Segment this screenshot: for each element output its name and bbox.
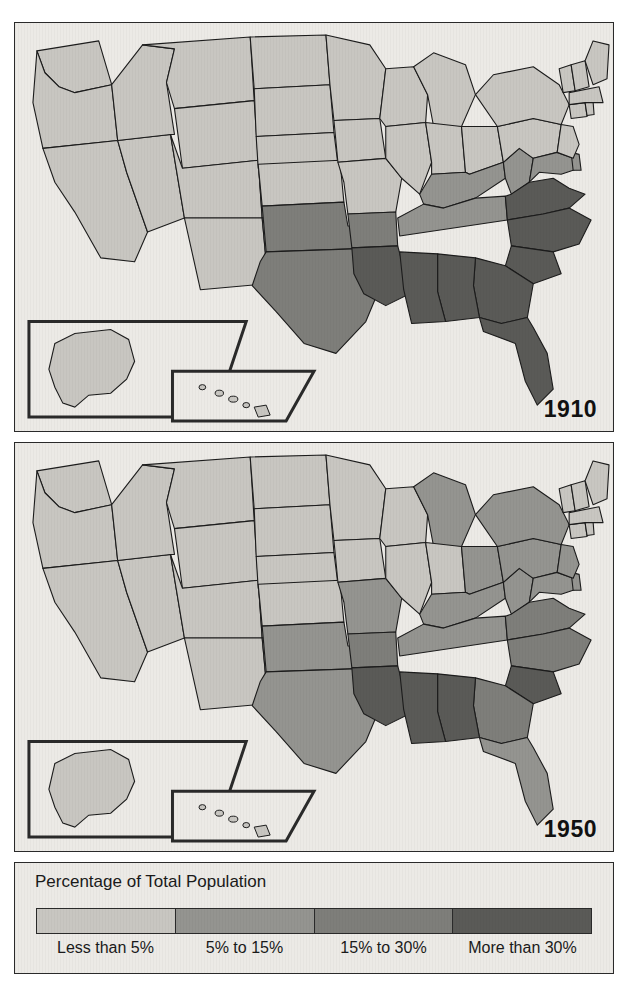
state-IN (426, 543, 466, 595)
state-MN (326, 455, 386, 541)
legend-color-bar (36, 908, 592, 934)
state-WY (174, 101, 258, 169)
us-map-1910 (15, 23, 613, 431)
state-IN (426, 123, 466, 175)
state-ND (250, 455, 330, 509)
state-SD (254, 85, 334, 137)
state-SD (254, 505, 334, 557)
state-AL (438, 674, 480, 742)
state-RI (585, 102, 594, 116)
state-AL (438, 254, 480, 322)
legend-title: Percentage of Total Population (35, 872, 266, 892)
state-IA (334, 119, 386, 163)
legend-label-2: 15% to 30% (314, 939, 453, 957)
map-panel-1910: 1910 (14, 22, 614, 432)
state-AR (348, 632, 398, 668)
state-NJ (557, 545, 579, 579)
state-WY (174, 521, 258, 589)
choropleth-figure: 1910 (0, 0, 628, 994)
hawaii-inset-1950 (172, 791, 314, 841)
legend-panel: Percentage of Total Population Less than… (14, 862, 614, 974)
hawaii-inset-1910 (172, 371, 314, 421)
legend-swatch-1 (176, 909, 315, 933)
state-KS (258, 580, 344, 626)
state-NY (475, 67, 569, 127)
state-KS (258, 160, 344, 206)
state-IA (334, 539, 386, 583)
state-NJ (557, 125, 579, 159)
legend-swatch-2 (315, 909, 454, 933)
state-NY (475, 487, 569, 547)
state-AR (348, 212, 398, 248)
year-label-1910: 1910 (544, 396, 597, 423)
legend-swatch-3 (453, 909, 591, 933)
legend-swatch-0 (37, 909, 176, 933)
state-ME (585, 41, 609, 85)
state-FL (479, 738, 553, 826)
legend-label-row: Less than 5% 5% to 15% 15% to 30% More t… (36, 939, 592, 957)
state-ID (112, 465, 175, 561)
state-ID (112, 45, 175, 141)
state-CT (569, 523, 587, 539)
state-ND (250, 35, 330, 89)
legend-label-1: 5% to 15% (175, 939, 314, 957)
us-map-1950 (15, 443, 613, 851)
year-label-1950: 1950 (544, 816, 597, 843)
state-ME (585, 461, 609, 505)
map-panel-1950: 1950 (14, 442, 614, 852)
legend-label-0: Less than 5% (36, 939, 175, 957)
state-CT (569, 103, 587, 119)
state-RI (585, 522, 594, 536)
state-MN (326, 35, 386, 121)
state-FL (479, 318, 553, 406)
legend-label-3: More than 30% (453, 939, 592, 957)
